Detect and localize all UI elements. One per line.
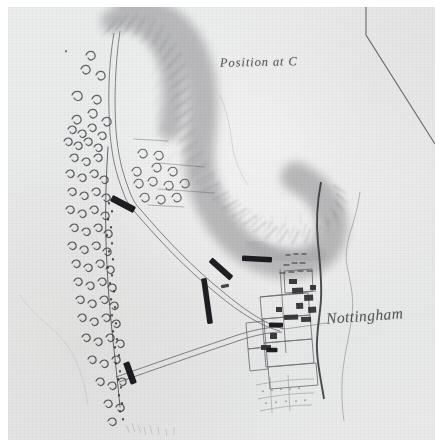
- troop-marker-6: [269, 322, 283, 327]
- troop-marker-layer: [8, 7, 435, 440]
- troop-marker-3: [201, 278, 213, 324]
- troop-marker-tick: [221, 284, 229, 289]
- scanned-sheet: Position at C Nottingham: [0, 0, 443, 448]
- troop-marker-5: [123, 361, 137, 385]
- troop-marker-4: [242, 255, 272, 262]
- map-paper: Position at C Nottingham: [8, 7, 435, 440]
- map-title-label: Position at C: [220, 54, 298, 71]
- troop-marker-1: [110, 195, 136, 213]
- troop-marker-2: [209, 257, 234, 280]
- troop-marker-7: [267, 348, 278, 352]
